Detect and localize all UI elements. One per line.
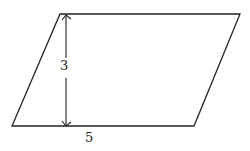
parallelogram-shape — [12, 14, 240, 126]
base-label: 5 — [85, 131, 93, 144]
height-label: 3 — [60, 59, 68, 72]
parallelogram-diagram — [0, 0, 250, 151]
